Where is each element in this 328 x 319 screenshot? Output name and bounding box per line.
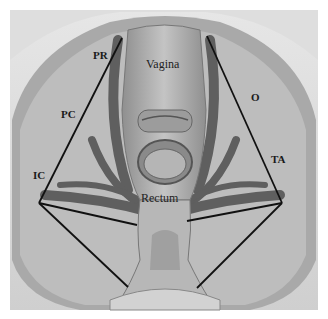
label-pr: PR	[93, 50, 108, 61]
label-vagina: Vagina	[146, 59, 179, 70]
label-pc: PC	[61, 109, 76, 120]
label-rectum: Rectum	[141, 193, 178, 204]
label-o: O	[251, 92, 260, 103]
pelvic-floor-diagram: Vagina Rectum PR PC IC O TA	[0, 0, 328, 319]
label-ic: IC	[33, 170, 45, 181]
label-ta: TA	[271, 154, 285, 165]
